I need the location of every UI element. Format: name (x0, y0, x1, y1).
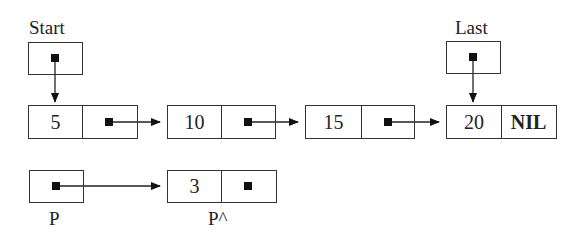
node-data-cell: 5 (28, 105, 83, 139)
pointer-dot-icon (51, 54, 59, 62)
p-label: P (49, 209, 60, 228)
node-data-cell: 15 (305, 105, 362, 139)
pointer-dot-icon (52, 182, 60, 190)
pointer-dot-icon (105, 118, 113, 126)
last-label: Last (455, 18, 488, 37)
node-data-cell: 20 (446, 105, 502, 139)
p-deref-label: P^ (208, 209, 227, 228)
pointer-dot-icon (244, 118, 252, 126)
pointer-dot-icon (244, 182, 252, 190)
pointer-dot-icon (384, 118, 392, 126)
start-label: Start (29, 18, 65, 37)
node-nil-cell: NIL (501, 105, 557, 139)
node-data-cell: 3 (167, 170, 222, 203)
node-data-cell: 10 (167, 105, 222, 139)
pointer-dot-icon (469, 53, 477, 61)
